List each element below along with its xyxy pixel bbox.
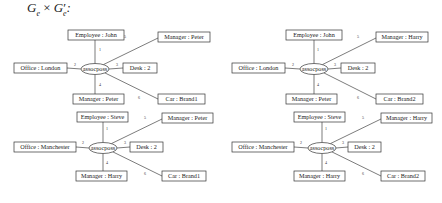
edge-5 bbox=[322, 38, 376, 65]
node-label-car: Car : Brand2 bbox=[387, 172, 419, 179]
graph-bottom-left: assocpossEmployee : SteveOffice : Manche… bbox=[14, 112, 213, 181]
node-label-manager-top: Manager : Peter bbox=[168, 114, 208, 121]
edge-label-5: 5 bbox=[362, 115, 364, 120]
edge-3 bbox=[336, 147, 348, 148]
edge-label-3: 3 bbox=[334, 62, 336, 67]
edge-2 bbox=[294, 147, 308, 148]
edge-3 bbox=[117, 147, 130, 148]
edge-5 bbox=[330, 119, 381, 144]
node-label-manager-top: Manager : Harry bbox=[386, 114, 428, 121]
edge-3 bbox=[328, 68, 341, 69]
node-label-employee: Employee : Steve bbox=[298, 113, 342, 120]
edge-label-4: 4 bbox=[106, 160, 108, 165]
edge-label-2: 2 bbox=[74, 62, 76, 67]
edge-label-6: 6 bbox=[357, 95, 359, 100]
center-label: assocposs bbox=[91, 144, 116, 151]
node-label-manager: Manager : Harry bbox=[299, 172, 341, 179]
graph-top-left: assocpossEmployee : JohnOffice : LondonD… bbox=[14, 30, 210, 104]
graph-top-right: assocpossEmployee : JohnOffice : LondonD… bbox=[232, 30, 428, 104]
node-label-office: Office : Manchester bbox=[20, 143, 69, 150]
node-label-manager: Manager : Peter bbox=[79, 95, 119, 102]
diagram-canvas: assocpossEmployee : JohnOffice : LondonD… bbox=[0, 0, 442, 203]
edge-label-3: 3 bbox=[124, 140, 126, 145]
node-label-car: Car : Brand1 bbox=[166, 95, 198, 102]
node-label-desk: Desk : 2 bbox=[348, 64, 369, 71]
edge-label-2: 2 bbox=[300, 140, 302, 145]
graph-bottom-right: assocpossEmployee : SteveOffice : Manche… bbox=[232, 112, 432, 181]
node-label-office: Office : Manchester bbox=[238, 143, 287, 150]
edge-label-4: 4 bbox=[99, 82, 101, 87]
edge-label-1: 1 bbox=[99, 47, 101, 52]
node-label-desk: Desk : 2 bbox=[354, 143, 375, 150]
node-label-employee: Employee : Steve bbox=[81, 113, 125, 120]
node-label-manager-top: Manager : Harry bbox=[381, 33, 423, 40]
node-label-manager: Manager : Harry bbox=[81, 172, 123, 179]
center-label: assocposs bbox=[83, 65, 108, 72]
edge-label-1: 1 bbox=[325, 126, 327, 131]
edge-2 bbox=[67, 68, 81, 69]
node-label-employee: Employee : John bbox=[293, 31, 335, 38]
edge-label-4: 4 bbox=[317, 82, 319, 87]
node-label-manager-top: Manager : Peter bbox=[164, 33, 204, 40]
node-label-desk: Desk : 2 bbox=[130, 64, 151, 71]
edge-5 bbox=[111, 119, 162, 144]
node-label-office: Office : London bbox=[239, 64, 279, 71]
edge-3 bbox=[109, 68, 123, 69]
center-label: assocposs bbox=[302, 65, 327, 72]
edge-2 bbox=[285, 68, 300, 69]
node-label-employee: Employee : John bbox=[75, 31, 117, 38]
edge-2 bbox=[76, 147, 89, 148]
node-label-desk: Desk : 2 bbox=[136, 143, 157, 150]
edge-label-5: 5 bbox=[144, 115, 146, 120]
edge-label-6: 6 bbox=[138, 95, 140, 100]
node-label-office: Office : London bbox=[21, 64, 61, 71]
edge-label-3: 3 bbox=[342, 140, 344, 145]
edge-label-2: 2 bbox=[82, 140, 84, 145]
node-label-car: Car : Brand1 bbox=[168, 172, 200, 179]
node-label-car: Car : Brand2 bbox=[384, 95, 416, 102]
edge-label-5: 5 bbox=[357, 34, 359, 39]
edge-label-4: 4 bbox=[325, 160, 327, 165]
center-label: assocposs bbox=[310, 144, 335, 151]
edge-label-2: 2 bbox=[292, 62, 294, 67]
edge-label-3: 3 bbox=[116, 62, 118, 67]
edge-5 bbox=[103, 38, 158, 65]
edge-label-6: 6 bbox=[362, 171, 364, 176]
edge-label-1: 1 bbox=[317, 47, 319, 52]
node-label-manager: Manager : Peter bbox=[292, 95, 332, 102]
edge-label-1: 1 bbox=[106, 126, 108, 131]
edge-label-6: 6 bbox=[144, 171, 146, 176]
edge-label-5: 5 bbox=[124, 34, 126, 39]
